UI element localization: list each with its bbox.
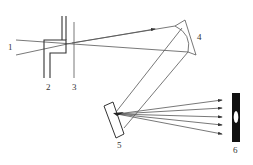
label-1: 1 xyxy=(8,42,13,52)
beam-to-mirror xyxy=(72,26,188,52)
spectrograph-diagram: 1 2 3 4 5 6 xyxy=(0,0,253,165)
concave-mirror xyxy=(175,20,196,55)
detector-screen xyxy=(232,93,240,142)
label-6: 6 xyxy=(233,145,238,155)
label-2: 2 xyxy=(46,82,51,92)
diffracted-beams xyxy=(113,100,222,134)
grating xyxy=(104,102,124,138)
label-4: 4 xyxy=(197,32,202,42)
label-3: 3 xyxy=(72,82,77,92)
incident-beam xyxy=(16,40,130,55)
label-5: 5 xyxy=(117,140,122,150)
